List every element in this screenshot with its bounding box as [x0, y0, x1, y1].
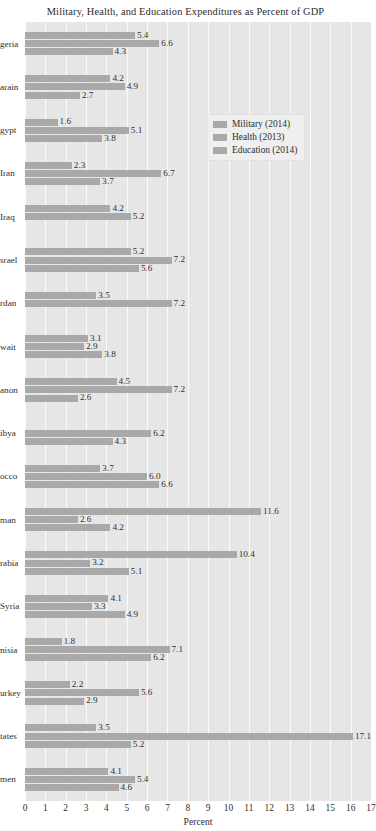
- bar-row[interactable]: 6.6: [25, 40, 371, 47]
- bar-row[interactable]: 3.3: [25, 603, 371, 610]
- bar-row[interactable]: 4.9: [25, 611, 371, 618]
- bar-value-label: 6.7: [163, 169, 174, 178]
- x-axis-spacer: [0, 801, 25, 816]
- bar-row[interactable]: 4.5: [25, 378, 371, 385]
- bar-row[interactable]: 4.3: [25, 48, 371, 55]
- x-axis-ticks: 01234567891011121314151617: [25, 801, 371, 816]
- bar-row[interactable]: 4.3: [25, 438, 371, 445]
- bar-row[interactable]: 6.2: [25, 654, 371, 661]
- bar-row[interactable]: 6.6: [25, 481, 371, 488]
- bar: [25, 508, 261, 515]
- bar-value-label: 5.1: [131, 567, 142, 576]
- bar: [25, 343, 84, 350]
- bar-value-label: 3.8: [104, 134, 115, 143]
- bar-row[interactable]: 6.0: [25, 473, 371, 480]
- legend-item-health[interactable]: Health (2013): [213, 133, 297, 142]
- bar-row[interactable]: 2.3: [25, 162, 371, 169]
- bar-row[interactable]: 4.1: [25, 595, 371, 602]
- bar-row[interactable]: 5.1: [25, 127, 371, 134]
- bar-row[interactable]: 5.6: [25, 689, 371, 696]
- bar: [25, 524, 110, 531]
- bar-groups: 5.46.64.34.24.92.71.65.13.82.36.73.74.25…: [25, 22, 371, 801]
- bar: [25, 689, 139, 696]
- bar-row[interactable]: 3.8: [25, 135, 371, 142]
- bar-row[interactable]: 4.1: [25, 768, 371, 775]
- y-axis-tick-label: occo: [0, 455, 25, 498]
- plot-area: 5.46.64.34.24.92.71.65.13.82.36.73.74.25…: [25, 22, 371, 801]
- bar-row[interactable]: 7.2: [25, 257, 371, 264]
- bar-value-label: 2.3: [74, 161, 85, 170]
- y-axis-labels: geriaaraingyptIranIraqsraelrdanwaitanoni…: [0, 22, 25, 801]
- bar-row[interactable]: 7.2: [25, 300, 371, 307]
- x-axis-tick: 1: [43, 803, 48, 813]
- bar-row[interactable]: 4.9: [25, 83, 371, 90]
- bar-row[interactable]: 3.7: [25, 178, 371, 185]
- bar-group: 4.13.34.9: [25, 585, 371, 628]
- bar: [25, 135, 102, 142]
- y-axis-tick-text: anon: [0, 385, 18, 395]
- bar-group: 3.57.2: [25, 282, 371, 325]
- bar-value-label: 2.9: [86, 696, 97, 705]
- bar-row[interactable]: 2.6: [25, 395, 371, 402]
- bar-row[interactable]: 6.7: [25, 170, 371, 177]
- legend-swatch-icon: [213, 134, 227, 141]
- bar: [25, 638, 62, 645]
- bar: [25, 611, 125, 618]
- bar-row[interactable]: 5.1: [25, 568, 371, 575]
- bar-row[interactable]: 5.2: [25, 213, 371, 220]
- bar: [25, 568, 129, 575]
- legend-item-education[interactable]: Education (2014): [213, 146, 297, 155]
- y-axis-tick-label: geria: [0, 22, 25, 65]
- bar-row[interactable]: 5.2: [25, 741, 371, 748]
- bar-group: 5.46.64.3: [25, 22, 371, 65]
- bar-row[interactable]: 4.6: [25, 784, 371, 791]
- bar-row: [25, 221, 371, 228]
- bar-row[interactable]: 7.1: [25, 646, 371, 653]
- bar: [25, 248, 131, 255]
- bar-row[interactable]: 3.5: [25, 724, 371, 731]
- y-axis-tick-label: urkey: [0, 671, 25, 714]
- bar-group: 3.517.15.2: [25, 715, 371, 758]
- bar-row[interactable]: 3.7: [25, 465, 371, 472]
- chart-body: geriaaraingyptIranIraqsraelrdanwaitanoni…: [0, 22, 371, 801]
- bar-row[interactable]: 2.9: [25, 698, 371, 705]
- bar: [25, 40, 159, 47]
- bar-row[interactable]: 10.4: [25, 551, 371, 558]
- bar-row[interactable]: 1.6: [25, 119, 371, 126]
- bar-row[interactable]: 4.2: [25, 75, 371, 82]
- bar-row[interactable]: 2.9: [25, 343, 371, 350]
- bar-row[interactable]: 3.5: [25, 292, 371, 299]
- bar-row[interactable]: 5.6: [25, 265, 371, 272]
- bar: [25, 481, 159, 488]
- bar-row[interactable]: 7.2: [25, 386, 371, 393]
- bar-row[interactable]: 1.8: [25, 638, 371, 645]
- bar-row[interactable]: 5.4: [25, 776, 371, 783]
- bar-row[interactable]: 6.2: [25, 430, 371, 437]
- bar-row[interactable]: 17.1: [25, 733, 371, 740]
- bar-row[interactable]: 5.4: [25, 32, 371, 39]
- bar-row[interactable]: 4.2: [25, 524, 371, 531]
- y-axis-tick-text: wait: [0, 342, 16, 352]
- bar-row[interactable]: 3.1: [25, 335, 371, 342]
- bar-row[interactable]: 2.2: [25, 681, 371, 688]
- bar-row[interactable]: 5.2: [25, 248, 371, 255]
- bar-value-label: 4.1: [110, 594, 121, 603]
- bar-value-label: 2.7: [82, 91, 93, 100]
- y-axis-tick-label: man: [0, 498, 25, 541]
- x-axis-tick: 9: [206, 803, 211, 813]
- bar-row[interactable]: 4.2: [25, 205, 371, 212]
- bar-value-label: 5.2: [133, 247, 144, 256]
- x-axis-tick: 10: [224, 803, 233, 813]
- legend-item-military[interactable]: Military (2014): [213, 120, 297, 129]
- bar-value-label: 4.9: [127, 82, 138, 91]
- bar: [25, 654, 151, 661]
- bar-row[interactable]: 11.6: [25, 508, 371, 515]
- bar-value-label: 7.1: [172, 645, 183, 654]
- bar-row[interactable]: 3.2: [25, 560, 371, 567]
- y-axis-tick-text: Iraq: [0, 212, 15, 222]
- bar-row[interactable]: 2.7: [25, 92, 371, 99]
- bar-row[interactable]: 2.6: [25, 516, 371, 523]
- bar-group: 10.43.25.1: [25, 541, 371, 584]
- bar-row[interactable]: 3.8: [25, 351, 371, 358]
- bar-value-label: 4.3: [115, 437, 126, 446]
